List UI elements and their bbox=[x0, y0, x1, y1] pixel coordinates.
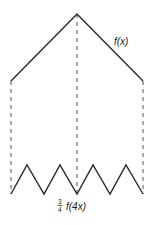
label-fraction-denominator: 4 bbox=[58, 206, 62, 213]
label-fraction-numerator: 3 bbox=[58, 198, 62, 205]
label-f-x: f(x) bbox=[114, 36, 128, 47]
label-f-4x: f(4x) bbox=[66, 201, 86, 212]
diagram-canvas: f(x) 3 4 f(4x) bbox=[0, 0, 156, 225]
